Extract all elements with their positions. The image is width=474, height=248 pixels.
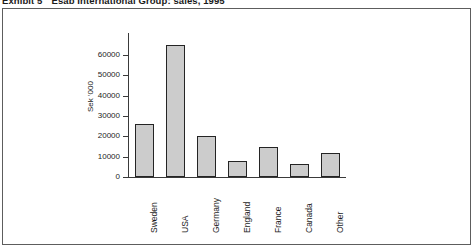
y-tick-mark — [123, 136, 128, 137]
x-label-france: France — [273, 207, 283, 233]
x-label-sweden: Sweden — [149, 202, 159, 233]
bar-germany — [197, 136, 216, 177]
x-label-other: Other — [335, 212, 345, 233]
x-label-canada: Canada — [304, 203, 314, 233]
x-label-england: England — [242, 202, 252, 233]
bar-france — [259, 147, 278, 178]
y-tick-mark — [123, 96, 128, 97]
y-tick-mark — [123, 157, 128, 158]
x-label-usa: USA — [180, 216, 190, 233]
y-tick-mark — [123, 55, 128, 56]
x-label-germany: Germany — [211, 198, 221, 233]
y-tick-mark — [123, 75, 128, 76]
x-axis-line — [128, 177, 346, 178]
bar-other — [321, 153, 340, 177]
bar-chart-plot: Sek '000 0100002000030000400005000060000… — [0, 0, 474, 248]
bar-england — [228, 161, 247, 177]
bar-sweden — [135, 124, 154, 177]
y-tick-mark — [123, 177, 128, 178]
y-axis-line — [128, 33, 129, 178]
y-axis-title: Sek '000 — [86, 81, 95, 112]
bar-usa — [166, 45, 185, 177]
y-tick-mark — [123, 116, 128, 117]
bar-canada — [290, 164, 309, 177]
